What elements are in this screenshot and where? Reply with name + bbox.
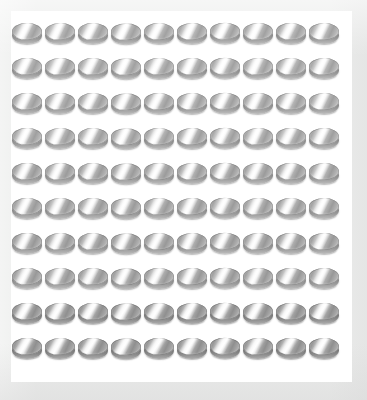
- metallic-disc: [111, 268, 141, 290]
- grid-cell: [176, 332, 209, 367]
- grid-cell: [209, 87, 242, 122]
- disc-top-face: [210, 198, 240, 215]
- disc-top-face: [276, 23, 306, 40]
- metallic-disc: [276, 58, 306, 80]
- metallic-disc: [177, 58, 207, 80]
- grid-cell: [176, 157, 209, 192]
- disc-top-face: [12, 93, 42, 110]
- grid-cell: [308, 122, 341, 157]
- grid-cell: [308, 192, 341, 227]
- grid-cell: [77, 332, 110, 367]
- disc-top-face: [111, 303, 141, 320]
- metallic-disc: [210, 303, 240, 325]
- grid-cell: [44, 297, 77, 332]
- metallic-disc: [243, 338, 273, 361]
- disc-top-face: [144, 233, 174, 251]
- metallic-disc: [177, 233, 207, 255]
- metallic-disc: [309, 128, 339, 150]
- grid-cell: [176, 52, 209, 87]
- metallic-disc: [309, 303, 339, 325]
- grid-cell: [44, 262, 77, 297]
- grid-cell: [143, 297, 176, 332]
- grid-cell: [275, 192, 308, 227]
- grid-cell: [209, 262, 242, 297]
- metallic-disc: [309, 23, 339, 45]
- grid-cell: [176, 87, 209, 122]
- metallic-disc: [210, 198, 240, 220]
- metallic-disc: [111, 303, 141, 325]
- metallic-disc: [210, 93, 240, 115]
- disc-top-face: [111, 268, 141, 285]
- disc-top-face: [111, 233, 141, 250]
- metallic-disc: [45, 93, 75, 115]
- grid-cell: [110, 17, 143, 52]
- grid-cell: [176, 192, 209, 227]
- disc-top-face: [12, 198, 42, 215]
- metallic-disc: [78, 58, 108, 80]
- grid-cell: [209, 52, 242, 87]
- grid-cell: [275, 157, 308, 192]
- disc-top-face: [78, 268, 108, 285]
- grid-cell: [44, 17, 77, 52]
- disc-top-face: [111, 198, 141, 215]
- grid-cell: [77, 122, 110, 157]
- metallic-disc: [144, 268, 174, 291]
- disc-top-face: [12, 58, 42, 75]
- grid-cell: [308, 52, 341, 87]
- disc-top-face: [12, 23, 42, 40]
- grid-cell: [275, 87, 308, 122]
- metallic-disc: [45, 303, 75, 325]
- grid-cell: [308, 262, 341, 297]
- metallic-disc: [12, 93, 42, 115]
- metallic-disc: [210, 23, 240, 45]
- grid-cell: [308, 332, 341, 367]
- grid-cell: [110, 227, 143, 262]
- disc-top-face: [111, 23, 141, 40]
- grid-cell: [143, 52, 176, 87]
- disc-top-face: [210, 58, 240, 75]
- disc-top-face: [276, 198, 306, 215]
- metallic-disc: [45, 128, 75, 150]
- metallic-disc: [210, 233, 240, 255]
- disc-top-face: [144, 128, 174, 146]
- disc-top-face: [210, 163, 240, 180]
- metallic-disc: [243, 233, 273, 256]
- disc-top-face: [12, 128, 42, 145]
- grid-cell: [11, 17, 44, 52]
- metallic-disc: [177, 198, 207, 220]
- metallic-disc: [276, 128, 306, 150]
- metallic-disc: [111, 58, 141, 80]
- grid-cell: [143, 262, 176, 297]
- metallic-disc: [210, 338, 240, 360]
- metallic-disc: [45, 338, 75, 360]
- metallic-disc: [177, 128, 207, 150]
- metallic-disc: [144, 58, 174, 81]
- metallic-disc: [309, 268, 339, 290]
- grid-cell: [242, 262, 275, 297]
- object-grid: [11, 17, 341, 367]
- metallic-disc: [243, 58, 273, 81]
- grid-cell: [242, 297, 275, 332]
- disc-top-face: [210, 233, 240, 250]
- disc-top-face: [12, 303, 42, 320]
- grid-cell: [110, 332, 143, 367]
- grid-cell: [11, 52, 44, 87]
- disc-top-face: [144, 93, 174, 111]
- grid-cell: [176, 227, 209, 262]
- grid-cell: [176, 262, 209, 297]
- disc-top-face: [210, 338, 240, 355]
- metallic-disc: [276, 198, 306, 220]
- metallic-disc: [243, 303, 273, 326]
- grid-cell: [11, 332, 44, 367]
- grid-cell: [44, 52, 77, 87]
- metallic-disc: [45, 23, 75, 45]
- metallic-disc: [177, 268, 207, 290]
- metallic-disc: [111, 163, 141, 185]
- metallic-disc: [78, 268, 108, 290]
- grid-cell: [77, 87, 110, 122]
- grid-cell: [44, 332, 77, 367]
- metallic-disc: [111, 93, 141, 115]
- grid-cell: [275, 122, 308, 157]
- grid-cell: [110, 262, 143, 297]
- disc-top-face: [144, 23, 174, 41]
